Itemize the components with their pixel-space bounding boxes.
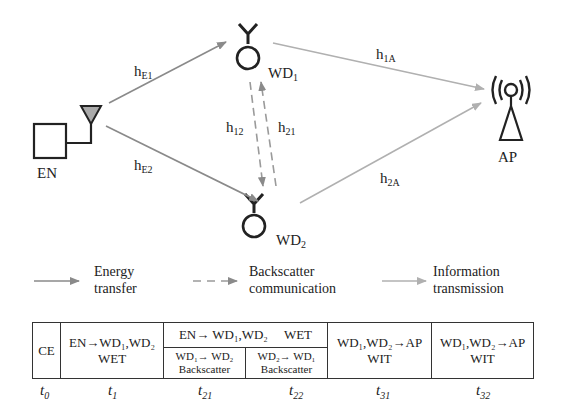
channel-h12-label: h12 bbox=[226, 120, 244, 137]
slot-t1: EN→WD₁,WD₂WET bbox=[61, 323, 164, 379]
ap-label: AP bbox=[498, 150, 517, 165]
time-label-t22: t22 bbox=[289, 382, 303, 401]
en-label: EN bbox=[37, 166, 57, 181]
en-node-icon bbox=[34, 106, 101, 158]
time-frame-table: CE EN→WD₁,WD₂WET EN→ WD₁,WD₂ WET WD₁,WD₂… bbox=[32, 322, 534, 379]
channel-h21-label: h21 bbox=[278, 120, 296, 137]
time-label-t21: t21 bbox=[198, 382, 212, 401]
slot-t31: WD₁,WD₂→APWIT bbox=[328, 323, 432, 379]
slot-ce: CE bbox=[33, 323, 61, 379]
arrow-hE2 bbox=[106, 126, 258, 201]
ap-node-icon bbox=[493, 76, 530, 140]
slot-t21: WD₁→ WD₂Backscatter bbox=[164, 348, 246, 379]
channel-h1A-label: h1A bbox=[376, 47, 396, 64]
slot-t2-wet: EN→ WD₁,WD₂ WET bbox=[164, 323, 328, 348]
slot-t22: WD₂→ WD₁Backscatter bbox=[246, 348, 328, 379]
time-label-t0: t0 bbox=[40, 382, 49, 401]
slot-t32: WD₁,WD₂→APWIT bbox=[432, 323, 534, 379]
arrow-hE1 bbox=[109, 42, 226, 103]
wd2-label: WD2 bbox=[276, 233, 306, 250]
arrow-h21 bbox=[261, 82, 276, 186]
channel-hE2-label: hE2 bbox=[134, 158, 153, 175]
wd1-node-icon bbox=[237, 24, 259, 69]
wd2-node-icon bbox=[243, 194, 265, 237]
legend-info-text: Informationtransmission bbox=[433, 263, 504, 297]
channel-hE1-label: hE1 bbox=[134, 64, 153, 81]
channel-h2A-label: h2A bbox=[380, 171, 400, 188]
wd1-label: WD1 bbox=[268, 66, 298, 83]
time-label-t32: t32 bbox=[476, 382, 490, 401]
arrow-h12 bbox=[250, 82, 263, 186]
legend-backscatter-text: Backscattercommunication bbox=[249, 263, 336, 297]
arrow-h2A bbox=[300, 103, 481, 203]
time-label-t31: t31 bbox=[376, 382, 390, 401]
legend-energy-text: Energytransfer bbox=[94, 263, 137, 297]
time-label-t1: t1 bbox=[108, 382, 117, 401]
